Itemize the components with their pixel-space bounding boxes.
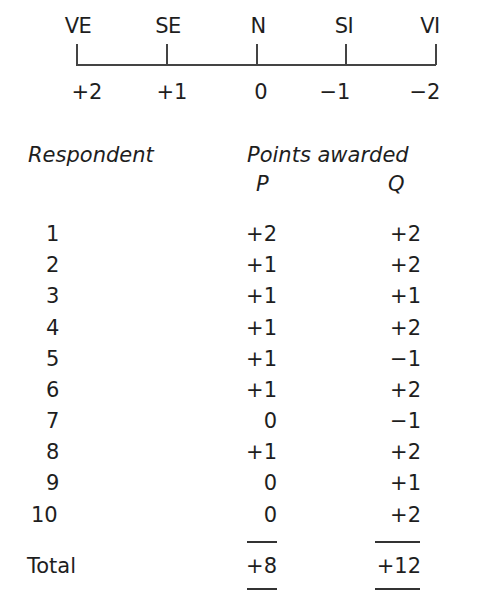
- sum-rule-p: [247, 541, 277, 543]
- scale-value-minus2: −2: [410, 80, 441, 104]
- row-3-q: +1: [390, 284, 421, 308]
- scale-label-si: SI: [335, 14, 354, 38]
- scale-tick: [76, 44, 78, 65]
- row-5-q: −1: [390, 347, 421, 371]
- row-7-p: 0: [264, 409, 277, 433]
- total-p: +8: [246, 554, 277, 578]
- scale-label-se: SE: [155, 14, 181, 38]
- scale-value-plus1: +1: [157, 80, 188, 104]
- row-10-p: 0: [264, 503, 277, 527]
- row-10-respondent: 10: [31, 503, 58, 527]
- row-9-respondent: 9: [46, 471, 59, 495]
- row-2-respondent: 2: [46, 253, 59, 277]
- row-5-respondent: 5: [46, 347, 59, 371]
- header-respondent: Respondent: [28, 143, 154, 167]
- row-8-p: +1: [246, 440, 277, 464]
- row-6-respondent: 6: [46, 378, 59, 402]
- header-col-p: P: [256, 172, 269, 196]
- total-q: +12: [377, 554, 421, 578]
- row-5-p: +1: [246, 347, 277, 371]
- row-1-q: +2: [390, 222, 421, 246]
- row-4-respondent: 4: [46, 316, 59, 340]
- scale-value-zero: 0: [254, 80, 267, 104]
- row-7-q: −1: [390, 409, 421, 433]
- total-underline-q: [375, 588, 420, 590]
- row-2-p: +1: [246, 253, 277, 277]
- scale-value-minus1: −1: [320, 80, 351, 104]
- scale-label-n: N: [250, 14, 265, 38]
- row-7-respondent: 7: [46, 409, 59, 433]
- total-underline-p: [247, 588, 277, 590]
- header-col-q: Q: [388, 172, 405, 196]
- row-6-p: +1: [246, 378, 277, 402]
- row-9-q: +1: [390, 471, 421, 495]
- scale-label-ve: VE: [65, 14, 92, 38]
- header-points-awarded: Points awarded: [247, 143, 409, 167]
- row-6-q: +2: [390, 378, 421, 402]
- scale-tick: [345, 44, 347, 65]
- row-4-p: +1: [246, 316, 277, 340]
- row-8-respondent: 8: [46, 440, 59, 464]
- row-1-p: +2: [246, 222, 277, 246]
- scale-value-plus2: +2: [72, 80, 103, 104]
- row-10-q: +2: [390, 503, 421, 527]
- scale-label-vi: VI: [420, 14, 440, 38]
- total-label: Total: [27, 554, 76, 578]
- scale-tick: [435, 44, 437, 65]
- row-2-q: +2: [390, 253, 421, 277]
- row-9-p: 0: [264, 471, 277, 495]
- row-3-respondent: 3: [46, 284, 59, 308]
- sum-rule-q: [375, 541, 420, 543]
- scale-tick: [166, 44, 168, 65]
- row-1-respondent: 1: [46, 222, 59, 246]
- row-8-q: +2: [390, 440, 421, 464]
- scale-tick: [256, 44, 258, 65]
- row-3-p: +1: [246, 284, 277, 308]
- row-4-q: +2: [390, 316, 421, 340]
